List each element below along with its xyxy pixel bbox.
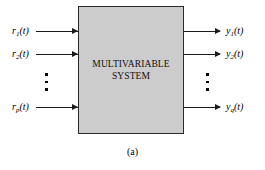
input-signal-label-p: rp(t)	[12, 101, 29, 114]
input-label-arg-1: (t)	[19, 25, 28, 36]
output-label-arg-q: (t)	[234, 101, 243, 112]
output-signal-label-2: y2(t)	[226, 48, 243, 61]
ellipsis-dot	[206, 73, 209, 76]
ellipsis-dot	[45, 81, 48, 84]
ellipsis-dot	[206, 81, 209, 84]
output-signal-label-1: y1(t)	[226, 25, 243, 38]
system-block-label: MULTIVARIABLE SYSTEM	[79, 59, 183, 82]
input-signal-label-1: r1(t)	[12, 25, 29, 38]
output-vertical-ellipsis	[206, 73, 209, 91]
output-arrow-head-q	[215, 104, 221, 110]
output-signal-label-q: yq(t)	[226, 101, 243, 114]
multivariable-system-block: MULTIVARIABLE SYSTEM	[78, 6, 184, 134]
system-block-label-line2: SYSTEM	[112, 70, 150, 80]
input-label-arg-p: (t)	[19, 101, 28, 112]
output-label-arg-2: (t)	[234, 48, 243, 59]
input-signal-label-2: r2(t)	[12, 48, 29, 61]
output-label-arg-1: (t)	[234, 25, 243, 36]
output-arrow-head-2	[215, 51, 221, 57]
block-diagram-figure: r1(t) r2(t) rp(t) MULTIVARIABLE SYSTEM y…	[0, 0, 265, 170]
output-arrow-head-1	[215, 28, 221, 34]
figure-caption: (a)	[0, 146, 265, 157]
ellipsis-dot	[206, 88, 209, 91]
input-label-arg-2: (t)	[19, 48, 28, 59]
input-vertical-ellipsis	[45, 73, 48, 91]
ellipsis-dot	[45, 73, 48, 76]
system-block-label-line1: MULTIVARIABLE	[92, 59, 169, 69]
ellipsis-dot	[45, 88, 48, 91]
